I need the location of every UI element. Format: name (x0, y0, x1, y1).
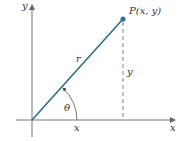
vertical-y-label: y (126, 66, 133, 77)
x-axis-label: x (170, 122, 176, 133)
radius-label: r (76, 53, 82, 64)
point-p (120, 16, 125, 21)
horizontal-x-label: x (74, 122, 80, 133)
polar-diagram: y x P(x, y) r y θ x (0, 0, 187, 141)
y-axis-label: y (21, 0, 28, 11)
radius-segment (32, 19, 123, 120)
point-label: P(x, y) (128, 5, 161, 16)
angle-theta-label: θ (64, 102, 70, 113)
diagram-svg: y x P(x, y) r y θ x (0, 0, 187, 141)
